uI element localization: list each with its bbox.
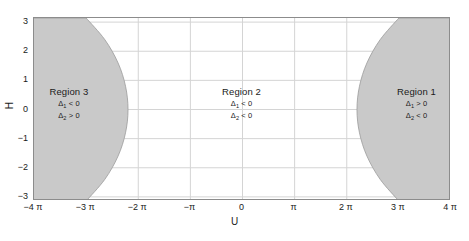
y-tick-label: −1 — [6, 133, 28, 143]
plot-canvas — [34, 18, 450, 200]
chart-figure: Region 3 Δ1 < 0 Δ2 > 0 Region 2 Δ1 < 0 Δ… — [0, 0, 469, 241]
x-tick-label: 3 π — [391, 202, 405, 212]
y-tick-label: −3 — [6, 191, 28, 201]
left-shaded-region — [34, 18, 128, 200]
x-tick-label: 2 π — [339, 202, 353, 212]
y-tick-label: −2 — [6, 162, 28, 172]
x-tick-label: 4 π — [443, 202, 457, 212]
x-tick-label: π — [291, 202, 297, 212]
x-tick-label: −4 π — [24, 202, 43, 212]
x-tick-label: 0 — [239, 202, 244, 212]
right-shaded-region — [357, 18, 450, 200]
y-tick-label: 3 — [6, 16, 28, 26]
y-axis-title: H — [4, 86, 15, 126]
x-tick-label: −2 π — [128, 202, 147, 212]
x-tick-label: −π — [184, 202, 195, 212]
x-axis-title: U — [0, 216, 469, 227]
y-tick-label: 2 — [6, 45, 28, 55]
plot-area — [33, 17, 450, 200]
y-tick-label: 1 — [6, 74, 28, 84]
x-tick-label: −3 π — [76, 202, 95, 212]
